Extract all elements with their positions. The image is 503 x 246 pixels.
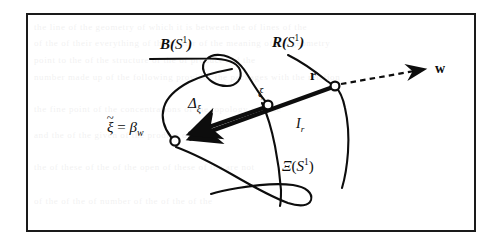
curve-b-path bbox=[150, 55, 266, 102]
label-segment-ir: Ir bbox=[296, 117, 304, 134]
diagram-artwork bbox=[0, 0, 503, 246]
node-xi-circle bbox=[264, 101, 273, 110]
label-curve-r: R(S1) bbox=[272, 34, 304, 50]
label-curve-xi-paren-close: ) bbox=[309, 158, 314, 174]
label-curve-b-name: B bbox=[160, 36, 170, 52]
label-curve-r-set: S bbox=[287, 34, 295, 50]
label-curve-b-paren-close: ) bbox=[187, 36, 192, 52]
figure-container: the line of the geometry of which it is … bbox=[0, 0, 503, 246]
label-segment-delta: Δξ bbox=[188, 96, 201, 114]
label-curve-xi-name: Ξ bbox=[282, 158, 292, 174]
label-curve-b-set: S bbox=[175, 36, 183, 52]
curve-xi-path bbox=[262, 103, 281, 206]
label-beta-subscript: w bbox=[137, 127, 144, 138]
label-delta-base: Δ bbox=[188, 95, 197, 111]
node-r-circle bbox=[331, 82, 340, 91]
label-beta-xi-tilde-group: ~ξ bbox=[107, 120, 113, 135]
label-beta-glyph: β bbox=[129, 119, 136, 135]
label-node-r: r bbox=[310, 69, 316, 83]
label-beta-tilde-accent: ~ bbox=[107, 112, 114, 125]
label-curve-r-paren-close: ) bbox=[299, 34, 304, 50]
label-vector-w: w bbox=[435, 62, 445, 76]
label-node-xi: ξ bbox=[258, 86, 264, 99]
node-beta-circle bbox=[170, 136, 179, 145]
vector-w-dashed bbox=[341, 69, 426, 84]
label-curve-b: B(S1) bbox=[160, 36, 192, 52]
label-curve-xi-set: S bbox=[297, 158, 305, 174]
label-node-xi-glyph: ξ bbox=[258, 85, 264, 100]
label-delta-subscript: ξ bbox=[197, 103, 201, 114]
label-curve-r-name: R bbox=[272, 34, 282, 50]
label-beta-equals: = bbox=[117, 119, 125, 135]
label-node-beta: ~ξ = βw bbox=[107, 120, 143, 138]
curve-lower-wave-path bbox=[176, 147, 311, 205]
label-curve-xi-big: Ξ(S1) bbox=[282, 158, 314, 174]
label-ir-subscript: r bbox=[301, 124, 305, 134]
